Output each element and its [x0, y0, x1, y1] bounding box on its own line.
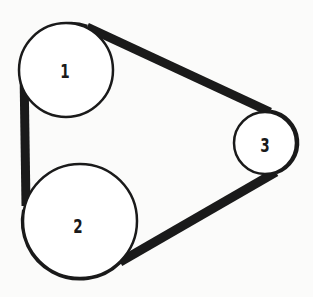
pulley-diagram: 1 2 3	[0, 0, 313, 297]
pulley-3-label: 3	[260, 135, 269, 155]
pulley-1-label: 1	[60, 61, 69, 81]
belt-segment-1-3	[87, 27, 270, 112]
belt-segment-3-2	[120, 172, 276, 262]
pulley-2-label: 2	[73, 216, 82, 236]
